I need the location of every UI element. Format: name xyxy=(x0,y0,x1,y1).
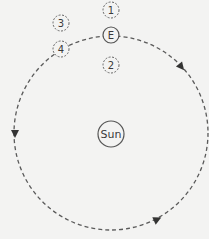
position-2: 2 xyxy=(103,57,119,73)
sun-label: Sun xyxy=(101,128,122,141)
orbit-arrow-left xyxy=(11,130,19,138)
earth: E xyxy=(103,27,119,43)
earth-label: E xyxy=(108,30,114,41)
sun: Sun xyxy=(98,121,124,147)
orbit-diagram: Sun E 1 2 3 4 xyxy=(0,0,209,239)
position-1: 1 xyxy=(103,2,119,18)
position-2-label: 2 xyxy=(108,60,114,71)
position-1-label: 1 xyxy=(108,5,114,16)
position-3: 3 xyxy=(53,15,69,31)
position-3-label: 3 xyxy=(58,18,64,29)
position-4: 4 xyxy=(53,41,69,57)
position-4-label: 4 xyxy=(58,44,64,55)
